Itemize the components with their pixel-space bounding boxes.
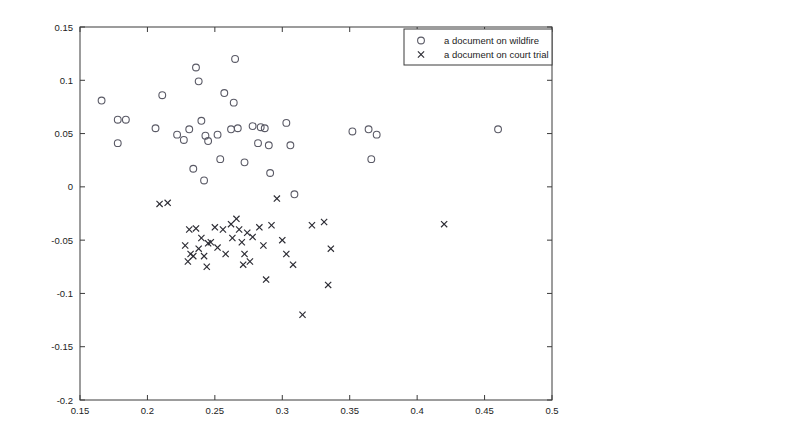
data-points bbox=[98, 56, 501, 318]
data-point-circle bbox=[190, 165, 197, 172]
data-point-circle bbox=[368, 156, 375, 163]
data-point-cross bbox=[239, 239, 245, 245]
data-point-circle bbox=[114, 116, 121, 123]
data-point-cross bbox=[274, 195, 280, 201]
x-tick-label: 0.5 bbox=[545, 405, 558, 416]
data-point-cross bbox=[220, 226, 226, 232]
data-point-cross bbox=[244, 230, 250, 236]
data-point-circle bbox=[152, 125, 159, 132]
y-tick-label: -0.15 bbox=[51, 341, 73, 352]
data-point-cross bbox=[201, 253, 207, 259]
data-point-circle bbox=[195, 78, 202, 85]
data-point-circle bbox=[234, 125, 241, 132]
data-point-circle bbox=[241, 159, 248, 166]
data-point-cross bbox=[165, 200, 171, 206]
y-tick-label: 0 bbox=[68, 181, 73, 192]
data-point-cross bbox=[283, 251, 289, 257]
data-point-circle bbox=[186, 126, 193, 133]
data-point-cross bbox=[441, 221, 447, 227]
legend-label: a document on court trial bbox=[444, 49, 549, 60]
data-point-cross bbox=[198, 235, 204, 241]
data-point-circle bbox=[287, 142, 294, 149]
data-point-cross bbox=[290, 262, 296, 268]
data-point-cross bbox=[247, 258, 253, 264]
y-tick-label: -0.05 bbox=[51, 235, 73, 246]
data-point-cross bbox=[240, 262, 246, 268]
data-point-cross bbox=[186, 226, 192, 232]
data-point-cross bbox=[185, 258, 191, 264]
data-point-cross bbox=[214, 245, 220, 251]
y-tick-label: 0.15 bbox=[55, 22, 74, 33]
x-tick-label: 0.4 bbox=[411, 405, 424, 416]
data-point-circle bbox=[291, 191, 298, 198]
plot-frame bbox=[80, 27, 552, 400]
y-tick-label: -0.2 bbox=[57, 395, 73, 406]
legend: a document on wildfirea document on cour… bbox=[404, 29, 552, 65]
data-point-cross bbox=[223, 251, 229, 257]
x-tick-label: 0.15 bbox=[71, 405, 90, 416]
data-point-cross bbox=[279, 237, 285, 243]
data-point-cross bbox=[309, 222, 315, 228]
data-point-circle bbox=[180, 137, 187, 144]
data-point-cross bbox=[250, 234, 256, 240]
data-point-cross bbox=[182, 242, 188, 248]
data-point-cross bbox=[299, 312, 305, 318]
data-point-circle bbox=[221, 90, 228, 97]
data-point-cross bbox=[325, 282, 331, 288]
data-point-cross bbox=[204, 264, 210, 270]
legend-label: a document on wildfire bbox=[444, 35, 539, 46]
data-point-circle bbox=[201, 177, 208, 184]
data-point-circle bbox=[232, 56, 239, 63]
data-point-cross bbox=[193, 225, 199, 231]
data-point-cross bbox=[236, 226, 242, 232]
x-tick-label: 0.35 bbox=[340, 405, 359, 416]
x-tick-label: 0.25 bbox=[206, 405, 225, 416]
data-point-circle bbox=[205, 138, 212, 145]
data-point-circle bbox=[495, 126, 502, 133]
y-tick-label: 0.05 bbox=[55, 128, 74, 139]
y-tick-label: -0.1 bbox=[57, 288, 73, 299]
data-point-cross bbox=[156, 201, 162, 207]
data-point-circle bbox=[267, 170, 274, 177]
x-tick-label: 0.2 bbox=[141, 405, 154, 416]
data-point-circle bbox=[217, 156, 224, 163]
scatter-plot-figure: 0.150.20.250.30.350.40.450.5-0.2-0.15-0.… bbox=[0, 0, 792, 447]
data-point-circle bbox=[228, 126, 235, 133]
data-point-circle bbox=[122, 116, 129, 123]
data-point-cross bbox=[260, 242, 266, 248]
data-point-cross bbox=[233, 216, 239, 222]
data-point-circle bbox=[230, 99, 237, 106]
data-point-cross bbox=[229, 235, 235, 241]
data-point-circle bbox=[283, 120, 290, 127]
data-point-circle bbox=[193, 64, 200, 71]
data-point-cross bbox=[190, 253, 196, 259]
data-point-cross bbox=[212, 224, 218, 230]
x-tick-label: 0.45 bbox=[475, 405, 494, 416]
data-point-circle bbox=[373, 131, 380, 138]
data-point-circle bbox=[214, 131, 221, 138]
data-point-cross bbox=[328, 246, 334, 252]
plot-canvas: 0.150.20.250.30.350.40.450.5-0.2-0.15-0.… bbox=[0, 0, 792, 447]
data-point-cross bbox=[263, 276, 269, 282]
data-point-circle bbox=[261, 125, 268, 132]
data-point-circle bbox=[114, 140, 121, 147]
data-point-circle bbox=[255, 140, 262, 147]
data-point-circle bbox=[198, 117, 205, 124]
data-point-circle bbox=[365, 126, 372, 133]
data-point-circle bbox=[249, 123, 256, 130]
data-point-circle bbox=[349, 128, 356, 135]
axes: 0.150.20.250.30.350.40.450.5-0.2-0.15-0.… bbox=[51, 22, 558, 417]
data-point-circle bbox=[265, 142, 272, 149]
data-point-cross bbox=[228, 221, 234, 227]
data-point-cross bbox=[321, 219, 327, 225]
y-tick-label: 0.1 bbox=[60, 75, 73, 86]
data-point-circle bbox=[159, 92, 166, 99]
data-point-cross bbox=[256, 224, 262, 230]
data-point-cross bbox=[196, 246, 202, 252]
data-point-cross bbox=[268, 222, 274, 228]
data-point-circle bbox=[98, 97, 105, 104]
data-point-cross bbox=[241, 251, 247, 257]
data-point-circle bbox=[174, 131, 181, 138]
x-tick-label: 0.3 bbox=[276, 405, 289, 416]
